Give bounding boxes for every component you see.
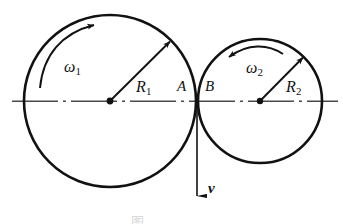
omega2-arc-arrow [229,46,283,57]
figure-container: ω1 ω2 R1 R2 A B v 图 [0,0,343,224]
radius1-label: R1 [136,79,152,97]
omega1-subscript: 1 [75,65,81,77]
diagram-canvas [0,0,343,224]
radius2-symbol: R [286,78,296,95]
omega1-arc-arrow [40,25,94,88]
radius1-symbol: R [136,78,146,95]
omega1-symbol: ω [64,58,75,75]
omega1-label: ω1 [64,59,81,77]
omega2-symbol: ω [246,59,257,76]
velocity-label: v [208,181,215,196]
omega2-label: ω2 [246,60,263,78]
point-a-label: A [177,79,186,94]
omega2-subscript: 2 [257,66,263,78]
radius2-subscript: 2 [296,85,302,97]
radius2-label: R2 [286,79,302,97]
figure-caption: 图 [131,211,144,224]
caption-strip: 图 [0,202,343,224]
point-b-label: B [205,79,214,94]
radius1-subscript: 1 [146,85,152,97]
